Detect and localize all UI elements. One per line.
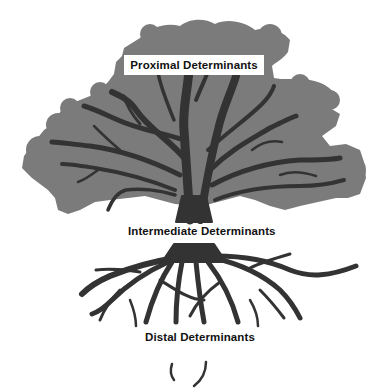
- proximal-determinants-label: Proximal Determinants: [130, 59, 257, 71]
- distal-determinants-label: Distal Determinants: [145, 331, 255, 343]
- tree-roots: [82, 244, 356, 386]
- proximal-label-box: Proximal Determinants: [124, 55, 264, 75]
- intermediate-determinants-label: Intermediate Determinants: [128, 225, 276, 237]
